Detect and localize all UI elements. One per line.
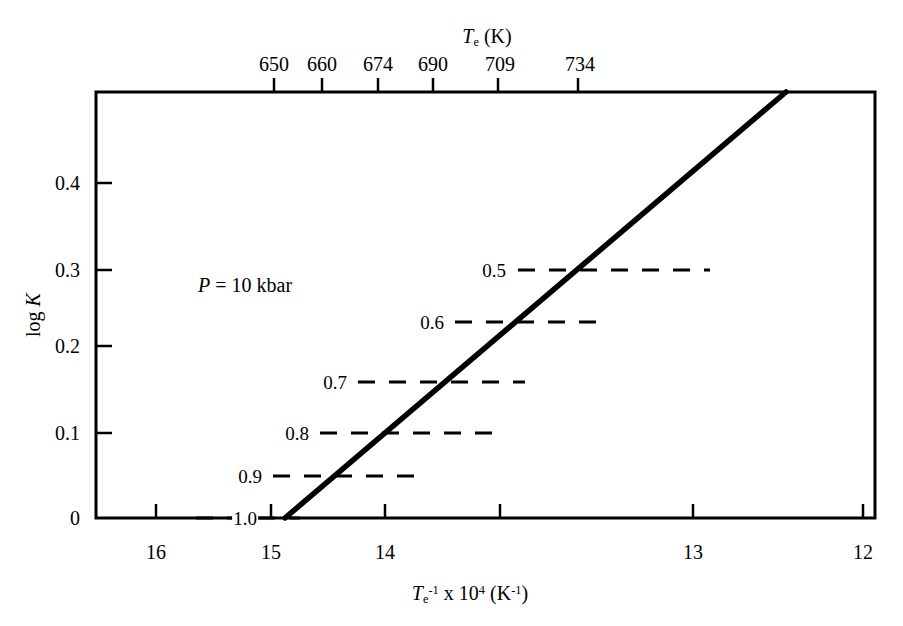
y-tick-label-0.4: 0.4: [36, 173, 80, 193]
top-tick-label-650: 650: [259, 54, 289, 74]
equilibrium-line-group: [285, 92, 786, 518]
y-tick-label-0.3: 0.3: [36, 260, 80, 280]
pressure-annotation: P = 10 kbar: [198, 275, 292, 295]
x-tick-label-14: 14: [375, 542, 395, 562]
x-tick-label-13: 13: [683, 542, 703, 562]
isopleth-label-0.7: 0.7: [323, 373, 347, 392]
y-tick-label-0.1: 0.1: [36, 423, 80, 443]
isopleth-label-0.5: 0.5: [482, 261, 506, 280]
left-axis-ticks: [96, 183, 112, 433]
x-axis-title: Te-1 x 104 (K-1): [412, 583, 528, 606]
chart-canvas: [0, 0, 903, 626]
top-axis-ticks: [274, 78, 578, 92]
y-tick-label-0: 0: [36, 508, 80, 528]
equilibrium-line: [285, 92, 786, 518]
x-tick-label-16: 16: [146, 542, 166, 562]
x-tick-label-15: 15: [261, 542, 281, 562]
isopleth-label-1.0: 1.0: [232, 509, 258, 528]
top-tick-label-734: 734: [565, 54, 595, 74]
x-tick-label-12: 12: [853, 542, 873, 562]
figure-container: Te (K) 650 660 674 690 709 734 0.4 0.3 0…: [0, 0, 903, 626]
y-axis-title: log K: [23, 293, 43, 337]
top-tick-label-709: 709: [485, 54, 515, 74]
plot-border: [96, 92, 875, 518]
plot-frame: [96, 92, 875, 518]
bottom-axis-ticks: [156, 504, 863, 518]
isopleth-label-0.8: 0.8: [285, 424, 309, 443]
top-tick-label-660: 660: [307, 54, 337, 74]
isopleth-label-0.9: 0.9: [238, 467, 262, 486]
top-tick-label-674: 674: [363, 54, 393, 74]
y-tick-label-0.2: 0.2: [36, 336, 80, 356]
top-tick-label-690: 690: [418, 54, 448, 74]
isopleth-lines: [196, 270, 710, 518]
top-axis-title: Te (K): [462, 26, 511, 49]
isopleth-label-0.6: 0.6: [420, 313, 444, 332]
